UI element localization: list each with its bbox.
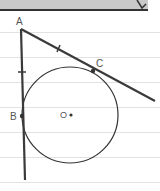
header-corner [137, 0, 146, 8]
geometry-figure [0, 0, 160, 191]
tangent-line-ab [21, 29, 25, 180]
point-b [20, 114, 24, 118]
label-c: C [96, 59, 103, 69]
tangent-line-ac [21, 29, 155, 101]
label-b: B [10, 112, 17, 122]
point-c [91, 69, 95, 73]
point-o [69, 113, 72, 116]
label-a: A [16, 17, 23, 27]
label-o: O [60, 110, 67, 120]
